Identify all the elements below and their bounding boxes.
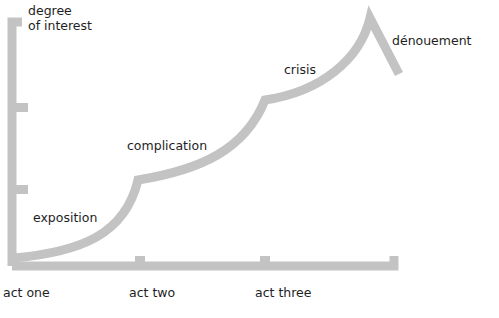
label-denouement: dénouement [392, 33, 472, 48]
x-axis [12, 256, 394, 266]
label-exposition: exposition [33, 210, 97, 225]
x-tick [135, 256, 145, 266]
y-axis [12, 22, 22, 266]
x-tick-act-two: act two [129, 285, 175, 300]
y-axis-label-line2: of interest [28, 18, 92, 33]
x-tick-act-one: act one [3, 285, 50, 300]
y-tick [12, 185, 28, 194]
label-crisis: crisis [284, 62, 316, 77]
x-tick [260, 256, 270, 266]
label-complication: complication [127, 138, 207, 153]
y-axis-label-line1: degree [28, 3, 72, 18]
y-tick [12, 103, 28, 112]
x-tick-act-three: act three [255, 285, 311, 300]
